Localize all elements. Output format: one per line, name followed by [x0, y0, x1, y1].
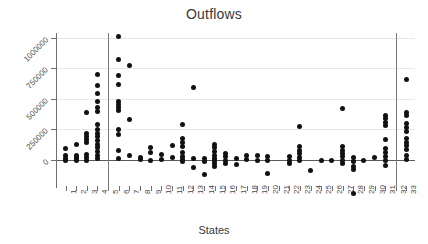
data-point: [404, 147, 409, 152]
gridline-500000: [57, 99, 415, 100]
x-tick: [151, 186, 152, 191]
y-tick: [51, 160, 57, 161]
data-point: [383, 158, 388, 163]
x-tick: [364, 186, 365, 191]
y-axis-line: [56, 33, 57, 188]
x-tick: [406, 186, 407, 191]
y-tick: [51, 38, 57, 39]
data-point: [63, 158, 68, 163]
reference-line-x32: [396, 33, 397, 188]
data-point: [351, 191, 356, 196]
data-point: [234, 156, 239, 161]
x-tick: [97, 186, 98, 191]
data-point: [383, 137, 388, 142]
data-point: [148, 150, 153, 155]
x-tick: [332, 186, 333, 191]
x-tick: [215, 186, 216, 191]
data-point: [287, 161, 292, 166]
data-point: [308, 168, 313, 173]
x-tick: [183, 186, 184, 191]
data-point: [383, 163, 388, 168]
x-tick: [257, 186, 258, 191]
data-point: [202, 159, 207, 164]
reference-line-x5: [108, 33, 109, 188]
y-tick: [51, 99, 57, 100]
x-tick: [140, 186, 141, 191]
data-point: [223, 161, 228, 166]
scatter-chart: Outflows 02500005000007500001000000 1234…: [0, 0, 428, 244]
x-tick: [76, 186, 77, 191]
data-point: [191, 85, 196, 90]
data-point: [180, 159, 185, 164]
data-point: [404, 157, 409, 162]
y-axis-label: 500000: [25, 96, 50, 121]
data-point: [383, 123, 388, 128]
data-point: [329, 158, 334, 163]
data-point: [116, 108, 121, 113]
data-point: [265, 171, 270, 176]
data-point: [191, 165, 196, 170]
y-axis-label: 1000000: [22, 35, 50, 63]
x-tick: [236, 186, 237, 191]
x-tick: [268, 186, 269, 191]
x-axis-title: States: [0, 224, 428, 236]
x-axis-label: 33: [409, 185, 418, 194]
y-label-wrap: 750000: [0, 68, 49, 69]
data-point: [180, 144, 185, 149]
data-point: [255, 158, 260, 163]
data-point: [95, 91, 100, 96]
data-point: [297, 158, 302, 163]
gridline-1000000: [57, 38, 415, 39]
data-point: [297, 124, 302, 129]
y-axis-label: 750000: [25, 66, 50, 91]
y-label-wrap: 500000: [0, 99, 49, 100]
x-tick: [279, 186, 280, 191]
data-point: [180, 122, 185, 127]
x-tick: [119, 186, 120, 191]
data-point: [148, 145, 153, 150]
y-label-wrap: 0: [0, 160, 49, 161]
data-point: [404, 113, 409, 118]
x-tick: [375, 186, 376, 191]
y-axis-label: 0: [41, 157, 51, 167]
data-point: [84, 140, 89, 145]
data-point: [63, 146, 68, 151]
data-point: [127, 153, 132, 158]
data-point: [202, 172, 207, 177]
data-point: [74, 158, 79, 163]
x-tick: [247, 186, 248, 191]
x-tick: [172, 186, 173, 191]
x-tick: [204, 186, 205, 191]
data-point: [84, 158, 89, 163]
x-tick: [129, 186, 130, 191]
data-point: [159, 157, 164, 162]
data-point: [95, 72, 100, 77]
data-point: [319, 158, 324, 163]
data-point: [244, 157, 249, 162]
data-point: [148, 158, 153, 163]
data-point: [265, 158, 270, 163]
data-point: [340, 161, 345, 166]
x-tick: [321, 186, 322, 191]
data-point: [361, 158, 366, 163]
data-point: [404, 129, 409, 134]
data-point: [116, 132, 121, 137]
data-point: [170, 155, 175, 160]
data-point: [84, 110, 89, 115]
y-label-wrap: 250000: [0, 129, 49, 130]
gridline-750000: [57, 68, 415, 69]
x-tick: [300, 186, 301, 191]
x-tick: [87, 186, 88, 191]
data-point: [95, 99, 100, 104]
gridline-250000: [57, 129, 415, 130]
data-point: [340, 106, 345, 111]
y-label-wrap: 1000000: [0, 38, 49, 39]
data-point: [404, 77, 409, 82]
chart-title: Outflows: [0, 6, 428, 22]
data-point: [170, 143, 175, 148]
data-point: [116, 57, 121, 62]
data-point: [138, 157, 143, 162]
x-tick: [343, 186, 344, 191]
data-point: [234, 162, 239, 167]
x-tick: [289, 186, 290, 191]
